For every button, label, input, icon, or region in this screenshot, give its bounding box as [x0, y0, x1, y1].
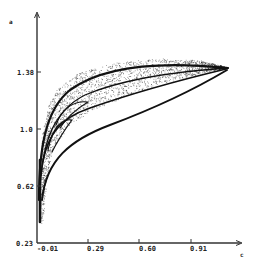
x-tick-label-0.60: 0.60 — [139, 245, 156, 253]
y-axis-label: a — [9, 18, 13, 25]
bands — [39, 65, 228, 222]
attractor-scatter-chart: 1.38 1.0 0.62 0.23 -0.01 0.29 0.60 0.91 … — [0, 0, 255, 274]
x-tick-label-0.91: 0.91 — [190, 245, 207, 253]
x-tick-label--0.01: -0.01 — [37, 245, 58, 253]
y-tick-label-1.0: 1.0 — [20, 126, 33, 134]
y-tick-label-0.23: 0.23 — [16, 240, 33, 248]
x-tick-label-0.29: 0.29 — [87, 245, 104, 253]
y-tick-label-0.62: 0.62 — [17, 183, 34, 191]
y-tick-label-1.38: 1.38 — [17, 69, 34, 77]
point-cloud — [39, 59, 229, 225]
x-axis-label: c — [240, 251, 244, 258]
